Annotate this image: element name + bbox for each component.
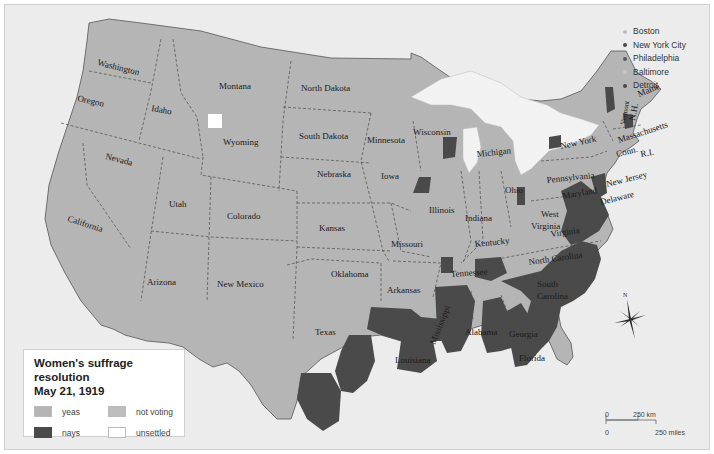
scale-mi-zero: 0 [605,429,609,436]
label-indiana: Indiana [465,213,492,223]
label-tennessee: Tennessee [450,266,487,279]
label-oklahoma: Oklahoma [331,269,369,279]
swatch-nays [34,427,52,438]
label-nevada: Nevada [105,151,134,167]
label-kansas: Kansas [319,223,345,233]
label-oregon: Oregon [77,93,106,108]
label-mississippi: Mississippi [428,304,453,346]
label-michigan: Michigan [476,145,512,159]
city-name: New York City [633,39,686,53]
swatch-unsettled [108,427,126,438]
swatch-not-voting [108,406,126,417]
city-legend: Boston New York City Philadelphia Baltim… [623,25,686,93]
city-baltimore: Baltimore [623,66,686,80]
city-name: Boston [633,25,659,39]
label-new-york: New York [559,133,597,150]
label-wyoming: Wyoming [223,137,259,147]
label-west-virginia-2: Virginia [531,221,560,231]
label-nebraska: Nebraska [317,169,351,179]
city-boston: Boston [623,25,686,39]
label-new-mexico: New Mexico [217,279,264,289]
label-south-dakota: South Dakota [299,131,348,141]
label-minnesota: Minnesota [367,135,405,145]
label-idaho: Idaho [151,103,173,116]
label-north-carolina: North Carolina [528,250,583,267]
compass-rose-icon: N [614,292,646,339]
label-illinois: Illinois [429,205,455,215]
label-alabama: Alabama [465,327,497,337]
scale-mi-label: 250 miles [655,429,685,436]
label-louisiana: Louisiana [395,355,431,365]
city-detroit: Detroit [623,79,686,93]
label-south-carolina-2: Carolina [537,291,568,301]
label-georgia: Georgia [509,329,538,339]
dot-icon [623,70,627,74]
label-ohio: Ohio [505,185,524,195]
label-iowa: Iowa [381,171,399,181]
map-frame: Washington Oregon California Idaho Nevad… [4,4,710,450]
label-arizona: Arizona [147,277,176,287]
legend-label-yeas: yeas [62,407,100,417]
label-connecticut: Conn. [615,144,639,159]
label-washington: Washington [97,57,141,77]
label-missouri: Missouri [391,239,424,249]
city-new-york: New York City [623,39,686,53]
label-rhode-island: R.I. [640,147,655,159]
label-colorado: Colorado [227,211,261,221]
legend-label-unsettled: unsettled [136,428,174,438]
label-utah: Utah [169,199,187,209]
city-name: Detroit [633,79,658,93]
scale-km-label: 250 km [633,411,656,418]
swatch-yeas [34,406,52,417]
label-kentucky: Kentucky [474,235,510,249]
dot-icon [623,43,627,47]
city-name: Philadelphia [633,52,679,66]
label-north-dakota: North Dakota [301,83,350,93]
city-name: Baltimore [633,66,669,80]
label-texas: Texas [315,327,336,337]
vote-legend: Women's suffrage resolution May 21, 1919… [23,349,185,437]
label-delaware: Delaware [599,189,635,207]
label-south-carolina-1: South [537,279,559,289]
scale-km-zero: 0 [605,411,609,418]
label-west-virginia-1: West [541,209,559,219]
legend-title-line1: Women's suffrage resolution [34,356,174,384]
compass-north-label: N [623,292,628,298]
legend-label-nays: nays [62,428,100,438]
city-philadelphia: Philadelphia [623,52,686,66]
label-maryland: Maryland [562,185,599,201]
label-pennsylvania: Pennsylvania [546,170,595,185]
label-new-jersey: New Jersey [605,169,648,189]
dot-icon [623,30,627,34]
label-wisconsin: Wisconsin [413,127,451,137]
dot-icon [623,57,627,61]
label-montana: Montana [219,81,251,91]
label-california: California [66,213,104,234]
label-arkansas: Arkansas [387,285,421,295]
label-florida: Florida [519,353,545,363]
legend-title-line2: May 21, 1919 [34,384,174,398]
legend-label-not-voting: not voting [136,407,174,417]
dot-icon [623,84,627,88]
